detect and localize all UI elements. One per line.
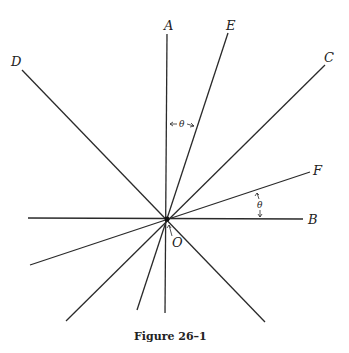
origin-point <box>165 217 170 222</box>
figure-caption: Figure 26–1 <box>134 330 207 343</box>
ray-e <box>137 33 228 310</box>
rays <box>22 33 325 322</box>
angle-annotation-fb: θ <box>255 193 263 217</box>
theta-label-ae: θ <box>179 119 185 129</box>
label-c: C <box>324 50 334 65</box>
ray-c <box>66 65 325 321</box>
ray-labels: A E C D F B O <box>10 18 334 250</box>
label-f: F <box>312 163 323 178</box>
theta-label-fb: θ <box>257 200 263 210</box>
label-o: O <box>172 235 183 250</box>
ray-a <box>165 34 167 313</box>
diagram-canvas: θ θ A E C D F B O Figure 26–1 <box>0 0 349 353</box>
label-b: B <box>307 212 318 227</box>
label-a: A <box>163 18 173 33</box>
label-d: D <box>10 54 22 69</box>
label-e: E <box>225 18 236 33</box>
angle-annotation-ae: θ <box>170 119 194 129</box>
ray-d <box>22 70 265 322</box>
